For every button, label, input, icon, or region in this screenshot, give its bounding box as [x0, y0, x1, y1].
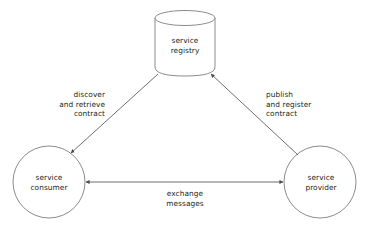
- node-label-service-provider: service provider: [285, 173, 357, 192]
- edge-label-discover: discover and retrieve contract: [44, 90, 105, 119]
- node-label-service-consumer: service consumer: [13, 173, 85, 192]
- discover-label-line2: and retrieve: [59, 100, 105, 109]
- cylinder-top-ellipse: [155, 11, 215, 26]
- publish-label-line1: publish: [266, 90, 293, 99]
- discover-label-line3: contract: [74, 109, 105, 118]
- publish-label-line2: and register: [266, 100, 311, 109]
- consumer-label-line1: service: [36, 173, 63, 182]
- consumer-label-line2: consumer: [31, 183, 68, 192]
- discover-label-line1: discover: [73, 90, 105, 99]
- exchange-label-line2: messages: [166, 199, 203, 208]
- registry-label-line1: service: [172, 36, 199, 45]
- node-label-service-registry: service registry: [155, 36, 215, 55]
- edge-label-exchange: exchange messages: [139, 189, 231, 208]
- provider-label-line2: provider: [305, 183, 336, 192]
- exchange-label-line1: exchange: [167, 189, 203, 198]
- publish-label-line3: contract: [266, 109, 297, 118]
- registry-label-line2: registry: [171, 46, 200, 55]
- edge-label-publish: publish and register contract: [266, 90, 327, 119]
- provider-label-line1: service: [308, 173, 335, 182]
